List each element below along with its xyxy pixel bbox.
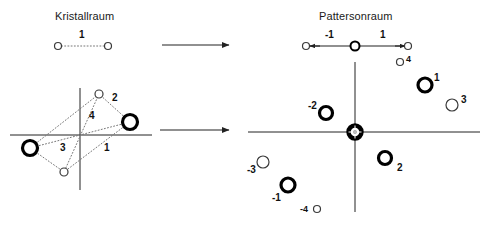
peak-origin xyxy=(351,42,360,51)
peak-3 xyxy=(446,99,458,111)
patterson-peak-label-4: 4 xyxy=(406,54,411,64)
dimer-vector-label: 1 xyxy=(79,29,85,40)
atom-left xyxy=(55,43,62,50)
patterson-peak-label-2: 2 xyxy=(397,162,403,173)
structure-vector-label-2: 2 xyxy=(112,92,118,103)
peak-minus-2 xyxy=(320,107,333,120)
patterson-figure: Kristallraum Pattersonraum 12431-11413-2… xyxy=(0,0,482,228)
structure-vector-label-1: 1 xyxy=(104,142,110,153)
structure-vector-label-4: 4 xyxy=(89,110,95,121)
patterson-1d-label-1: 1 xyxy=(380,29,386,40)
crystal-dimer-group xyxy=(55,43,112,50)
patterson-peak-label-1: 1 xyxy=(434,72,440,83)
peak-2 xyxy=(379,152,392,165)
atom-right xyxy=(105,43,112,50)
peak-4 xyxy=(397,59,404,66)
light-atom-bottom xyxy=(60,168,68,176)
peak-minus-3 xyxy=(257,156,269,168)
peak-minus-4 xyxy=(314,206,321,213)
transform-arrows-group xyxy=(160,45,229,130)
heavy-atom-left xyxy=(23,141,38,156)
patterson-peak-label-minus3: -3 xyxy=(247,164,256,175)
light-atom-top xyxy=(95,90,103,98)
patterson-2d-group xyxy=(248,59,480,213)
patterson-peak-label-minus2: -2 xyxy=(308,100,317,111)
patterson-peak-label-minus1: -1 xyxy=(272,192,281,203)
patterson-peak-label-3: 3 xyxy=(461,94,467,105)
patterson-1d-label-minus1: -1 xyxy=(325,29,334,40)
crystal-structure-group xyxy=(10,88,152,190)
structure-vector-label-3: 3 xyxy=(60,142,66,153)
peak-plus-1 xyxy=(405,43,412,50)
vector-2b-line xyxy=(64,122,130,172)
peak-minus-1 xyxy=(303,43,310,50)
patterson-peak-label-minus4: -4 xyxy=(300,204,308,214)
peak-minus-1 xyxy=(281,178,295,192)
patterson-1d-group xyxy=(303,42,412,51)
vector-4-line xyxy=(64,94,99,172)
peak-1 xyxy=(418,78,432,92)
heavy-atom-right xyxy=(123,115,138,130)
vector-3b-line xyxy=(30,94,99,148)
figure-canvas xyxy=(0,0,482,228)
